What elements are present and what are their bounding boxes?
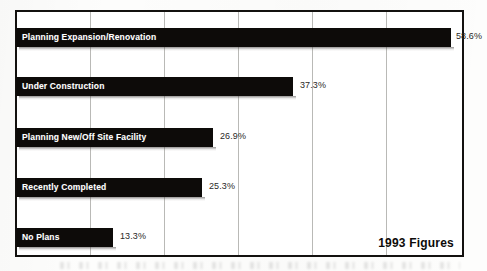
bar-series-group: Planning Expansion/Renovation 58.6% Unde… — [0, 0, 487, 271]
bar-recently-completed: Recently Completed — [16, 178, 202, 197]
bar-row: Planning Expansion/Renovation 58.6% — [16, 28, 476, 47]
bar-value-label: 25.3% — [209, 182, 235, 191]
bar-label: Under Construction — [22, 82, 105, 91]
bar-label: Planning Expansion/Renovation — [22, 33, 156, 42]
bar-under-construction: Under Construction — [16, 77, 293, 96]
bar-shadow — [19, 96, 296, 100]
bar-shadow — [19, 247, 116, 251]
chart-page: 1993 Figures Planning Expansion/Renovati… — [0, 0, 487, 271]
bar-shadow — [19, 47, 454, 51]
bar-row: No Plans 13.3% — [16, 228, 256, 247]
bar-planning-new-off-site-facility: Planning New/Off Site Facility — [16, 128, 213, 147]
bar-row: Under Construction 37.3% — [16, 77, 416, 96]
bar-value-label: 13.3% — [120, 232, 146, 241]
bar-row: Recently Completed 25.3% — [16, 178, 346, 197]
bar-no-plans: No Plans — [16, 228, 113, 247]
bar-value-label: 37.3% — [300, 81, 326, 90]
bar-shadow — [19, 197, 205, 201]
bar-planning-expansion-renovation: Planning Expansion/Renovation — [16, 28, 451, 47]
bar-value-label: 26.9% — [220, 132, 246, 141]
bar-row: Planning New/Off Site Facility 26.9% — [16, 128, 346, 147]
bar-label: Recently Completed — [22, 183, 106, 192]
bar-value-label: 58.6% — [456, 32, 482, 41]
bar-shadow — [19, 147, 216, 151]
bar-label: No Plans — [22, 233, 60, 242]
bar-label: Planning New/Off Site Facility — [22, 133, 146, 142]
